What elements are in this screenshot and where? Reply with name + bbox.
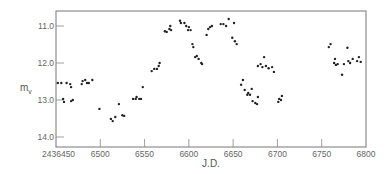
data-point xyxy=(259,63,261,65)
data-points xyxy=(57,18,362,123)
data-point xyxy=(349,62,351,64)
x-tick-label: 6650 xyxy=(224,149,243,159)
data-point xyxy=(84,79,86,81)
y-tick-label: 11.0 xyxy=(38,21,54,31)
data-point xyxy=(244,89,246,91)
x-tick-label: 6800 xyxy=(357,149,376,159)
data-point xyxy=(180,22,182,24)
data-point xyxy=(63,101,65,103)
data-point xyxy=(114,116,116,118)
data-point xyxy=(251,100,253,102)
data-point xyxy=(110,118,112,120)
light-curve-chart: 24364506500655066006650670067506800 11.0… xyxy=(0,0,392,174)
data-point xyxy=(337,63,339,65)
x-tick-label: 6750 xyxy=(312,149,331,159)
data-point xyxy=(158,62,160,64)
data-point xyxy=(91,79,93,81)
data-point xyxy=(247,92,249,94)
data-point xyxy=(360,61,362,63)
data-point xyxy=(72,99,74,101)
data-point xyxy=(242,79,244,81)
x-tick-label: 6550 xyxy=(135,149,154,159)
data-point xyxy=(240,84,242,86)
data-point xyxy=(211,25,213,27)
data-point xyxy=(81,80,83,82)
data-point xyxy=(196,55,198,57)
data-point xyxy=(261,66,263,68)
data-point xyxy=(273,71,275,73)
data-point xyxy=(205,34,207,36)
data-point xyxy=(341,74,343,76)
data-point xyxy=(271,66,273,68)
data-point xyxy=(185,25,187,27)
data-point xyxy=(192,46,194,48)
plot-frame xyxy=(56,11,366,147)
data-point xyxy=(236,43,238,45)
data-point xyxy=(183,22,185,24)
data-point xyxy=(170,29,172,31)
data-point xyxy=(142,86,144,88)
y-axis-title-subscript: v xyxy=(28,88,32,95)
x-tick-label: 6700 xyxy=(268,149,287,159)
x-tick-label: 6600 xyxy=(179,149,198,159)
y-tick-label: 14.0 xyxy=(37,132,54,142)
data-point xyxy=(277,101,279,103)
x-axis-title: J.D. xyxy=(202,158,220,169)
data-point xyxy=(169,25,171,27)
data-point xyxy=(135,96,137,98)
data-point xyxy=(231,37,233,39)
data-point xyxy=(346,47,348,49)
data-point xyxy=(158,65,160,67)
data-point xyxy=(356,60,358,62)
data-point xyxy=(257,65,259,67)
data-point xyxy=(57,82,59,84)
data-point xyxy=(267,67,269,69)
data-point xyxy=(140,98,142,100)
data-point xyxy=(179,20,181,22)
y-axis-title: mv xyxy=(20,82,32,95)
data-point xyxy=(281,95,283,97)
data-point xyxy=(234,40,236,42)
y-axis-title-main: m xyxy=(20,82,28,93)
data-point xyxy=(220,23,222,25)
data-point xyxy=(112,120,114,122)
data-point xyxy=(187,29,189,31)
data-point xyxy=(188,26,190,28)
y-tick-label: 13.0 xyxy=(37,95,54,105)
data-point xyxy=(156,68,158,70)
data-point xyxy=(347,60,349,62)
data-point xyxy=(222,23,224,25)
data-point xyxy=(70,86,72,88)
data-point xyxy=(123,115,125,117)
data-point xyxy=(343,63,345,65)
data-point xyxy=(256,103,258,105)
data-point xyxy=(60,82,62,84)
x-axis: 24364506500655066006650670067506800 xyxy=(42,139,376,159)
data-point xyxy=(166,31,168,33)
data-point xyxy=(207,28,209,30)
data-point xyxy=(197,58,199,60)
x-tick-label: 6500 xyxy=(91,149,110,159)
data-point xyxy=(358,56,360,58)
data-point xyxy=(280,99,282,101)
data-point xyxy=(65,82,67,84)
y-tick-label: 12.0 xyxy=(37,58,54,68)
data-point xyxy=(132,98,134,100)
data-point xyxy=(151,70,153,72)
data-point xyxy=(118,103,120,105)
data-point xyxy=(333,62,335,64)
data-point xyxy=(265,65,267,67)
data-point xyxy=(81,83,83,85)
data-point xyxy=(263,56,265,58)
y-axis: 11.012.013.014.0 xyxy=(37,21,64,142)
data-point xyxy=(228,18,230,20)
data-point xyxy=(334,58,336,60)
data-point xyxy=(257,96,259,98)
data-point xyxy=(69,83,71,85)
data-point xyxy=(329,43,331,45)
data-point xyxy=(225,25,227,27)
data-point xyxy=(233,22,235,24)
data-point xyxy=(352,58,354,60)
data-point xyxy=(328,46,330,48)
data-point xyxy=(191,43,193,45)
